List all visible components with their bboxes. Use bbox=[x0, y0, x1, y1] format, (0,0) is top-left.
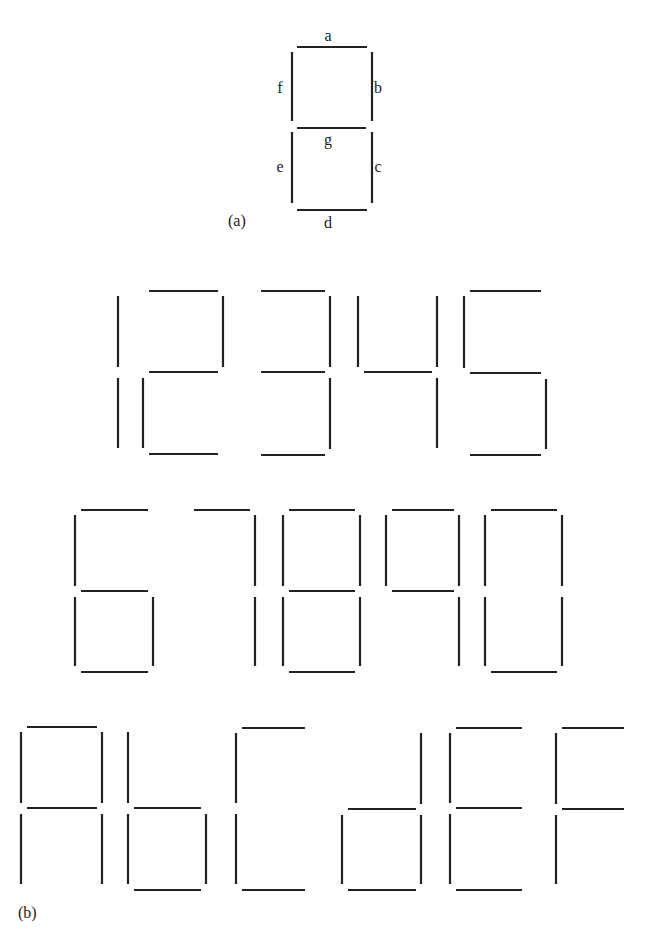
character-set-diagram bbox=[21, 291, 624, 890]
glyph-3 bbox=[261, 291, 330, 455]
segment-label-f: f bbox=[277, 79, 283, 96]
segment-label-a: a bbox=[324, 27, 331, 44]
glyph-7 bbox=[194, 510, 255, 666]
glyph-C bbox=[236, 728, 305, 890]
seven-segment-figure: abcdefg (a) (b) bbox=[0, 0, 652, 934]
glyph-2 bbox=[143, 291, 223, 454]
glyph-9 bbox=[386, 510, 459, 666]
segment-label-d: d bbox=[324, 214, 332, 231]
part-a-label: (a) bbox=[228, 212, 246, 230]
glyph-row-3 bbox=[21, 727, 624, 890]
glyph-0 bbox=[485, 510, 562, 672]
segment-legend-diagram: abcdefg bbox=[276, 27, 382, 231]
glyph-row-1 bbox=[118, 291, 546, 455]
segment-label-b: b bbox=[374, 79, 382, 96]
segment-label-c: c bbox=[374, 158, 381, 175]
segment-label-e: e bbox=[276, 158, 283, 175]
glyph-4 bbox=[358, 296, 437, 448]
glyph-b bbox=[128, 732, 206, 890]
part-b-label: (b) bbox=[18, 904, 37, 922]
glyph-d bbox=[342, 733, 421, 890]
glyph-5 bbox=[464, 291, 546, 455]
glyph-F bbox=[556, 728, 624, 884]
glyph-E bbox=[450, 728, 522, 890]
segment-label-g: g bbox=[324, 131, 332, 149]
glyph-8 bbox=[283, 510, 360, 672]
glyph-6 bbox=[75, 510, 153, 672]
glyph-A bbox=[21, 727, 102, 884]
glyph-row-2 bbox=[75, 510, 562, 672]
